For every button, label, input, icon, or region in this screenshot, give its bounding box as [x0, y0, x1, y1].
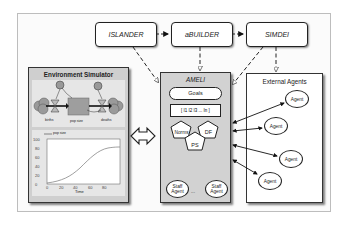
- chart-legend: pop size: [53, 131, 66, 135]
- staff-agent-1-label: Staff Agent: [167, 184, 188, 194]
- svg-text:60: 60: [35, 155, 40, 160]
- ameli-title: AMELI: [161, 76, 230, 83]
- agent-3: Agent: [279, 150, 303, 168]
- population-chart: 02040 6080100 02040 6080 pop size Time: [32, 130, 125, 196]
- svg-text:100: 100: [33, 137, 40, 142]
- ameli-panel: AMELI Goals [ I1 I2 I3 ... In ] Norms DF…: [160, 72, 231, 203]
- agent-2-label: Agent: [270, 124, 283, 129]
- stock-flow-diagram: births pop size deaths: [32, 80, 125, 127]
- staff-agent-2-label: Staff Agent: [206, 184, 227, 194]
- agent-4: Agent: [258, 172, 282, 190]
- goals-box: Goals: [169, 87, 222, 100]
- institution-list-label: [ I1 I2 I3 ... In ]: [181, 108, 210, 113]
- abuilder-label: aBUILDER: [185, 31, 219, 38]
- islander-label: ISLANDER: [108, 31, 143, 38]
- pop-size-label: pop size: [70, 119, 83, 123]
- ellipsis: ...: [191, 189, 195, 194]
- svg-text:80: 80: [102, 185, 107, 190]
- svg-text:0: 0: [46, 185, 49, 190]
- norms-label: Norms: [173, 130, 190, 135]
- agent-2: Agent: [264, 117, 288, 135]
- environment-simulator-title: Environment Simulator: [29, 71, 128, 78]
- islander-box: ISLANDER: [95, 22, 157, 47]
- svg-text:60: 60: [88, 185, 93, 190]
- svg-text:20: 20: [59, 185, 64, 190]
- deaths-label: deaths: [101, 118, 112, 122]
- agent-4-label: Agent: [264, 179, 277, 184]
- institution-list: [ I1 I2 I3 ... In ]: [170, 104, 221, 117]
- simdei-label: SIMDEI: [265, 31, 289, 38]
- abuilder-box: aBUILDER: [171, 22, 233, 47]
- ps-label: PS: [187, 142, 203, 148]
- staff-agent-1: Staff Agent: [166, 180, 189, 198]
- external-agents-panel: External Agents Agent Agent Agent Agent: [246, 73, 323, 203]
- chart-xlabel: Time: [75, 189, 84, 194]
- simdei-box: SIMDEI: [246, 22, 308, 47]
- agent-1: Agent: [285, 90, 309, 108]
- environment-simulator-panel: Environment Simulator: [28, 67, 129, 203]
- svg-text:80: 80: [35, 146, 40, 151]
- staff-agent-2: Staff Agent: [205, 180, 228, 198]
- svg-text:40: 40: [35, 164, 40, 169]
- external-agents-title: External Agents: [247, 78, 322, 85]
- births-label: births: [45, 118, 54, 122]
- goals-label: Goals: [188, 91, 202, 96]
- svg-text:20: 20: [35, 173, 40, 178]
- df-label: DF: [201, 129, 216, 135]
- agent-3-label: Agent: [285, 157, 298, 162]
- agent-1-label: Agent: [291, 97, 304, 102]
- svg-text:0: 0: [35, 182, 38, 187]
